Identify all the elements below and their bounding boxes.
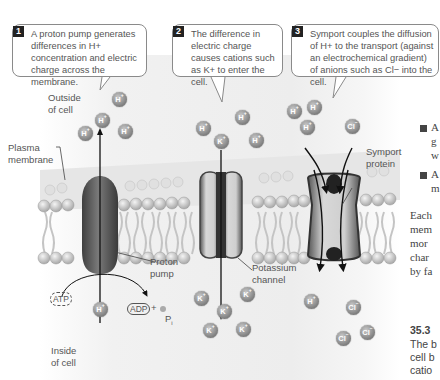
text-line: g (431, 134, 439, 148)
label-line: of cell (48, 104, 81, 116)
potassium-ion: K+ (214, 134, 229, 149)
hydrogen-ion: H+ (249, 133, 264, 148)
hydrogen-ion: H+ (307, 100, 322, 115)
section-number: 35.3 (410, 324, 430, 337)
text-line: by fa (410, 264, 432, 278)
callout-step-1: 1 A proton pump generates differences in… (12, 24, 147, 77)
label-line: Symport (366, 146, 401, 158)
text-line: mem (410, 222, 432, 236)
label-outside-of-cell: Outside of cell (48, 92, 81, 116)
step-number-2: 2 (173, 26, 184, 37)
callout-step-2: 2 The difference in electric charge caus… (172, 24, 283, 77)
label-line: pump (150, 268, 178, 280)
label-line: Inside (51, 345, 76, 357)
body-paragraph: Each mem mor char by fa (410, 208, 432, 278)
text-line: catio (410, 364, 437, 377)
label-line: Plasma (8, 142, 53, 154)
bullet-icon (420, 172, 427, 179)
potassium-ion: K+ (217, 304, 232, 319)
label-proton-pump: Proton pump (150, 256, 178, 280)
bullet-icon (420, 125, 427, 132)
potassium-ion: K+ (194, 291, 209, 306)
label-line: Proton (150, 256, 178, 268)
label-line: Potassium (252, 262, 296, 274)
label-line: protein (366, 158, 401, 170)
bullet-text-2: A m (431, 167, 440, 195)
pi-subscript: i (171, 320, 172, 326)
text-line: mor (410, 236, 432, 250)
atp-hydrolysis-arrow (62, 274, 146, 296)
hydrogen-ion: H+ (95, 113, 110, 128)
phosphate-icon (160, 306, 166, 312)
chloride-ion: Cl− (336, 331, 351, 346)
label-line: channel (252, 274, 296, 286)
adp-oval: ADP (127, 303, 150, 315)
hydrogen-ion: H+ (287, 104, 302, 119)
label-inside-of-cell: Inside of cell (51, 345, 76, 369)
potassium-ion: K+ (236, 322, 251, 337)
proton-pump (82, 128, 118, 323)
plus-sign: + (151, 302, 157, 314)
potassium-ion: K+ (203, 323, 218, 338)
label-plasma-membrane: Plasma membrane (8, 142, 53, 166)
callout-step-3: 3 Symport couples the diffusion of H+ to… (291, 24, 439, 77)
step-number-1: 1 (13, 26, 24, 37)
atp-label: ATP (53, 294, 69, 304)
chloride-ion: Cl− (360, 325, 375, 340)
chloride-ion: Cl− (345, 119, 360, 134)
bullet-text-1: A g w (431, 120, 439, 162)
step-number-3: 3 (292, 26, 303, 37)
text-line: m (431, 181, 440, 195)
potassium-ion: K+ (240, 287, 255, 302)
text-line: A (431, 120, 439, 134)
text-line: Each (410, 208, 432, 222)
hydrogen-ion: H+ (112, 92, 127, 107)
atp-starburst: ATP (50, 292, 72, 306)
hydrogen-ion: H+ (93, 302, 108, 317)
label-potassium-channel: Potassium channel (252, 262, 296, 286)
hydrogen-ion: H+ (196, 121, 211, 136)
text-line: w (431, 148, 439, 162)
hydrogen-ion: H+ (304, 294, 319, 309)
hydrogen-ion: H+ (78, 126, 93, 141)
text-line: cell b (410, 351, 437, 364)
hydrogen-ion: H+ (118, 124, 133, 139)
text-line: char (410, 250, 432, 264)
adp-label: ADP (130, 304, 147, 314)
label-line: Outside (48, 92, 81, 104)
inorganic-phosphate-label: Pi (165, 313, 173, 329)
hydrogen-ion: H+ (235, 110, 250, 125)
text-line: The b (410, 338, 437, 351)
chloride-ion: Cl− (346, 300, 361, 315)
section-text: The b cell b catio (410, 338, 437, 377)
label-line: of cell (51, 357, 76, 369)
hydrogen-ion: H+ (300, 120, 315, 135)
text-line: A (431, 167, 440, 181)
potassium-channel-leader (238, 258, 252, 270)
label-symport-protein: Symport protein (366, 146, 401, 170)
label-line: membrane (8, 154, 53, 166)
